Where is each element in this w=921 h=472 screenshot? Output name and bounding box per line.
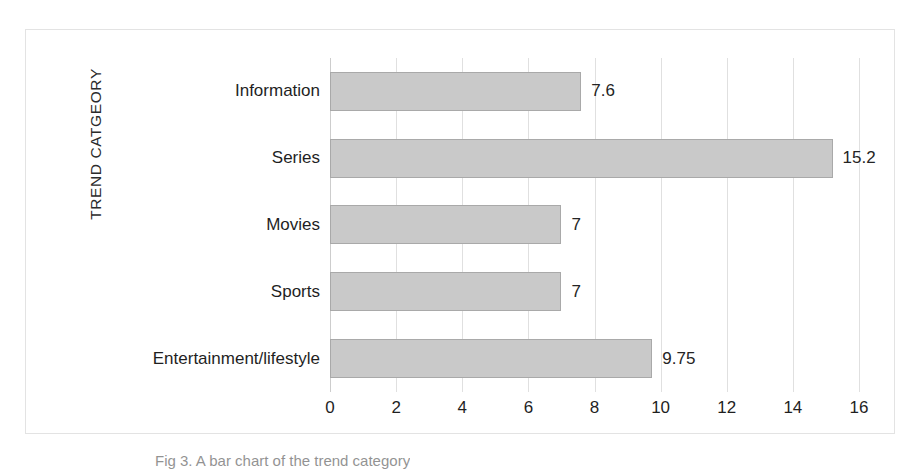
- bar-value-label: 15.2: [843, 148, 876, 168]
- bar-value-label: 7: [571, 215, 580, 235]
- figure-caption: Fig 3. A bar chart of the trend category: [155, 452, 410, 472]
- bar-row: 15.2: [330, 125, 859, 192]
- chart-frame: TREND CATGEORY InformationSeriesMoviesSp…: [25, 29, 895, 434]
- bar-row: 7: [330, 192, 859, 259]
- category-label: Sports: [271, 258, 326, 325]
- bar-row: 7.6: [330, 58, 859, 125]
- bar-row: 9.75: [330, 325, 859, 392]
- bar[interactable]: 7.6: [330, 72, 581, 111]
- bar[interactable]: 9.75: [330, 339, 652, 378]
- bar-row: 7: [330, 258, 859, 325]
- category-label: Entertainment/lifestyle: [153, 325, 326, 392]
- bar[interactable]: 7: [330, 205, 561, 244]
- gridline-16: [859, 58, 860, 392]
- category-label: Movies: [266, 192, 326, 259]
- bar-value-label: 7.6: [591, 81, 615, 101]
- x-tick-label-2: 2: [391, 398, 400, 418]
- bar[interactable]: 15.2: [330, 139, 833, 178]
- bar-rows: 7.615.2779.75: [330, 58, 859, 392]
- x-tick-label-10: 10: [651, 398, 670, 418]
- category-label: Series: [272, 125, 326, 192]
- x-tick-label-14: 14: [783, 398, 802, 418]
- chart-screenshot: TREND CATGEORY InformationSeriesMoviesSp…: [0, 0, 921, 472]
- bar[interactable]: 7: [330, 272, 561, 311]
- x-tick-label-16: 16: [850, 398, 869, 418]
- x-tick-label-0: 0: [325, 398, 334, 418]
- x-tick-label-4: 4: [458, 398, 467, 418]
- x-axis-tick-labels: 0246810121416: [330, 398, 859, 428]
- x-tick-label-6: 6: [524, 398, 533, 418]
- x-tick-label-8: 8: [590, 398, 599, 418]
- x-tick-label-12: 12: [717, 398, 736, 418]
- bar-value-label: 7: [571, 282, 580, 302]
- plot-area: 7.615.2779.75: [330, 58, 859, 392]
- y-axis-category-labels: InformationSeriesMoviesSportsEntertainme…: [61, 58, 326, 392]
- category-label: Information: [235, 58, 326, 125]
- bar-value-label: 9.75: [662, 349, 695, 369]
